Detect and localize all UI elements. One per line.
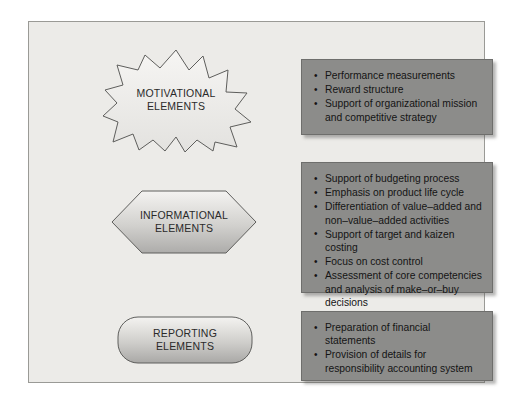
informational-elements-hexagon[interactable]: INFORMATIONAL ELEMENTS [111, 190, 257, 254]
list-item: Performance measurements [314, 69, 482, 82]
motivational-elements-starburst[interactable]: MOTIVATIONAL ELEMENTS [103, 48, 249, 152]
list-item: Preparation of financial statements [314, 321, 482, 347]
informational-bullet-list: Support of budgeting process Emphasis on… [314, 172, 482, 309]
starburst-icon [103, 48, 249, 152]
rounded-rectangle-icon [117, 316, 253, 364]
reporting-bullet-list: Preparation of financial statements Prov… [314, 321, 482, 375]
list-item: Differentiation of value–added and non–v… [314, 200, 482, 226]
informational-elements-box: Support of budgeting process Emphasis on… [301, 162, 493, 293]
list-item: Focus on cost control [314, 255, 482, 268]
list-item: Support of budgeting process [314, 172, 482, 185]
motivational-bullet-list: Performance measurements Reward structur… [314, 69, 482, 124]
list-item: Support of target and kaizen costing [314, 228, 482, 254]
list-item: Assessment of core competencies and anal… [314, 269, 482, 309]
list-item: Reward structure [314, 83, 482, 96]
reporting-elements-rounded-rectangle[interactable]: REPORTING ELEMENTS [117, 316, 253, 364]
list-item: Emphasis on product life cycle [314, 186, 482, 199]
list-item: Support of organizational mission and co… [314, 97, 482, 123]
reporting-elements-box: Preparation of financial statements Prov… [301, 311, 493, 381]
motivational-elements-box: Performance measurements Reward structur… [301, 59, 493, 135]
diagram-frame: MOTIVATIONAL ELEMENTS Performance measur… [28, 21, 485, 383]
diagram-canvas: MOTIVATIONAL ELEMENTS Performance measur… [0, 0, 508, 403]
hexagon-icon [111, 190, 257, 254]
list-item: Provision of details for responsibility … [314, 348, 482, 374]
